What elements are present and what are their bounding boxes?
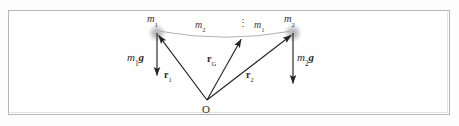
vector-r2 xyxy=(207,35,291,100)
label-vector-rG: rG xyxy=(207,54,216,64)
label-origin-O: O xyxy=(202,104,210,115)
label-mass-m1-top: m1 xyxy=(147,14,158,25)
label-arc-m2: m2 xyxy=(195,20,206,30)
connecting-arc xyxy=(161,32,289,38)
label-mass-m2-top: m2 xyxy=(284,14,295,25)
vector-r1 xyxy=(159,35,207,100)
label-arc-ellipsis: ⋮ xyxy=(238,18,248,28)
vector-rG xyxy=(207,39,241,100)
vector-diagram-canvas xyxy=(0,0,459,126)
label-vector-r1: r1 xyxy=(164,70,172,80)
label-vector-r2: r2 xyxy=(246,70,254,80)
label-arc-m1: m1 xyxy=(254,20,265,30)
label-force-m1g: m1g xyxy=(127,52,144,63)
figure-root: m1 m2 ⋮ m1 m2 m1g m2g r1 rG r2 O xyxy=(0,0,459,126)
label-force-m2g: m2g xyxy=(297,52,314,63)
